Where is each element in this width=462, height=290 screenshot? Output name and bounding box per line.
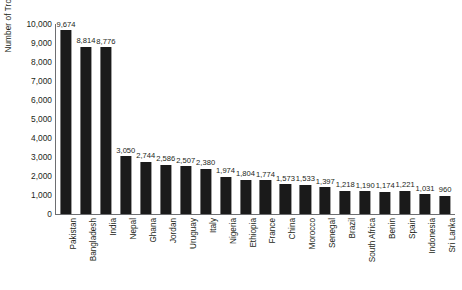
bar-value-label: 8,814: [76, 37, 95, 45]
bar: [280, 184, 291, 214]
bar-group: 1,573: [275, 24, 295, 214]
y-axis-tick-label: 5,000: [12, 115, 52, 123]
bar: [140, 162, 151, 214]
bar-value-label: 8,776: [96, 38, 115, 46]
y-axis-tick-label: 0: [12, 210, 52, 218]
bar-value-label: 1,804: [236, 170, 255, 178]
x-axis-label-slot: Indonesia: [415, 216, 435, 290]
troop-contributions-bar-chart: Number of Troops 10,0009,0008,0007,0006,…: [0, 0, 462, 290]
bar-group: 1,804: [236, 24, 256, 214]
bar-value-label: 2,586: [156, 155, 175, 163]
bar-group: 1,774: [256, 24, 276, 214]
bar: [260, 180, 271, 214]
bar-group: 3,050: [116, 24, 136, 214]
x-axis-label-slot: Benin: [375, 216, 395, 290]
y-axis-tick-label: 3,000: [12, 153, 52, 161]
bar: [340, 191, 351, 214]
y-axis-tick-label: 9,000: [12, 39, 52, 47]
bar-value-label: 1,221: [396, 181, 415, 189]
plot-area: 9,6748,8148,7763,0502,7442,5862,5072,380…: [56, 24, 455, 214]
bar-group: 2,586: [156, 24, 176, 214]
x-axis-label-slot: China: [275, 216, 295, 290]
y-axis-tick-label: 6,000: [12, 96, 52, 104]
bar-group: 1,031: [415, 24, 435, 214]
bar-value-label: 2,744: [136, 152, 155, 160]
bar: [419, 194, 430, 214]
x-axis-label-slot: Morocco: [295, 216, 315, 290]
bar-value-label: 1,533: [296, 175, 315, 183]
bar: [120, 156, 131, 214]
bar-value-label: 1,190: [356, 182, 375, 190]
bar-value-label: 1,774: [256, 171, 275, 179]
bar-group: 8,776: [96, 24, 116, 214]
bar-group: 1,174: [375, 24, 395, 214]
x-axis-label-slot: India: [96, 216, 116, 290]
bar-group: 1,221: [395, 24, 415, 214]
x-axis-label-slot: Senegal: [315, 216, 335, 290]
x-axis-label-slot: Brazil: [335, 216, 355, 290]
bar-group: 1,218: [335, 24, 355, 214]
bar-group: 1,974: [216, 24, 236, 214]
bar: [200, 169, 211, 214]
bar: [439, 196, 450, 214]
x-axis-line: [55, 214, 455, 215]
x-axis-label-slot: Ghana: [136, 216, 156, 290]
y-axis-tick-label: 8,000: [12, 58, 52, 66]
bar-value-label: 960: [439, 186, 452, 194]
bar: [160, 165, 171, 214]
x-axis-category-label: Sri Lanka: [449, 218, 458, 253]
bar-group: 1,533: [295, 24, 315, 214]
y-axis-tick-label: 7,000: [12, 77, 52, 85]
bar: [80, 47, 91, 214]
x-axis-category-labels: PakistanBangladeshIndiaNepalGhanaJordanU…: [56, 216, 455, 290]
bar-value-label: 1,573: [276, 175, 295, 183]
bar-group: 8,814: [76, 24, 96, 214]
bar-group: 9,674: [56, 24, 76, 214]
bar: [400, 191, 411, 214]
x-axis-label-slot: Jordan: [156, 216, 176, 290]
x-axis-label-slot: Spain: [395, 216, 415, 290]
x-axis-label-slot: South Africa: [355, 216, 375, 290]
bar-group: 2,507: [176, 24, 196, 214]
bar: [320, 187, 331, 214]
bar: [180, 166, 191, 214]
x-axis-label-slot: Ethiopia: [236, 216, 256, 290]
y-axis-tick-label: 4,000: [12, 134, 52, 142]
x-axis-label-slot: Pakistan: [56, 216, 76, 290]
bar-value-label: 3,050: [116, 147, 135, 155]
bar: [360, 191, 371, 214]
x-axis-label-slot: Sri Lanka: [435, 216, 455, 290]
bar: [240, 180, 251, 214]
bar: [220, 177, 231, 215]
bar-value-label: 1,174: [376, 182, 395, 190]
bar-value-label: 2,507: [176, 157, 195, 165]
y-axis-tick-label: 10,000: [12, 20, 52, 28]
y-axis-tick-label: 2,000: [12, 172, 52, 180]
bar-value-label: 2,380: [196, 159, 215, 167]
bar-group: 1,190: [355, 24, 375, 214]
x-axis-label-slot: Italy: [196, 216, 216, 290]
bar-group: 2,380: [196, 24, 216, 214]
bar-value-label: 1,218: [336, 181, 355, 189]
bar-value-label: 1,397: [316, 178, 335, 186]
bar-group: 2,744: [136, 24, 156, 214]
y-axis-tick-labels: 10,0009,0008,0007,0006,0005,0004,0003,00…: [12, 24, 52, 216]
bar: [100, 47, 111, 214]
x-axis-label-slot: France: [256, 216, 276, 290]
bar-value-label: 9,674: [56, 21, 75, 29]
bar: [380, 192, 391, 214]
x-axis-label-slot: Uruguay: [176, 216, 196, 290]
bar-value-label: 1,031: [416, 185, 435, 193]
x-axis-label-slot: Nepal: [116, 216, 136, 290]
bar-group: 960: [435, 24, 455, 214]
y-axis-tick-label: 1,000: [12, 191, 52, 199]
bar: [60, 30, 71, 214]
bar-value-label: 1,974: [216, 167, 235, 175]
x-axis-label-slot: Bangladesh: [76, 216, 96, 290]
bar: [300, 185, 311, 214]
x-axis-label-slot: Nigeria: [216, 216, 236, 290]
bar-group: 1,397: [315, 24, 335, 214]
